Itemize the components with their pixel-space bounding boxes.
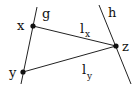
label-x: x	[17, 18, 25, 33]
label-lx-main: l	[80, 21, 84, 36]
label-ly-subscript: y	[86, 71, 93, 81]
diagram-canvas: g h x y z l x l y	[0, 0, 140, 92]
segment-ly	[23, 46, 116, 72]
label-z: z	[122, 39, 129, 54]
label-y: y	[8, 65, 17, 80]
point-y	[20, 69, 25, 74]
label-ly: l	[82, 62, 86, 77]
label-h: h	[108, 5, 117, 20]
point-x	[30, 23, 35, 28]
label-g: g	[42, 6, 50, 21]
label-lx-subscript: x	[85, 29, 90, 39]
label-lx: l	[80, 21, 84, 36]
point-z	[113, 43, 118, 48]
segment-lx	[33, 26, 116, 46]
label-ly-main: l	[82, 62, 86, 77]
